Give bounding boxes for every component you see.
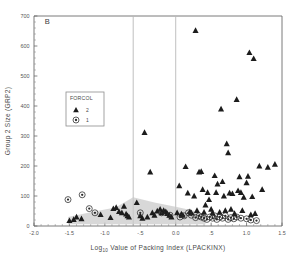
- legend-item-label-1: 1: [86, 117, 89, 123]
- data-point-circle-dot: [240, 217, 242, 219]
- data-point-triangle: [205, 189, 211, 195]
- data-point-triangle: [194, 207, 200, 213]
- y-tick-label: 200: [21, 163, 30, 169]
- data-point-triangle: [208, 206, 214, 212]
- data-point-triangle: [259, 186, 265, 192]
- data-point-circle-dot: [224, 215, 226, 217]
- y-tick-label: 300: [21, 133, 30, 139]
- data-point-circle-dot: [250, 219, 252, 221]
- data-point-circle-dot: [94, 212, 96, 214]
- data-point-triangle: [246, 49, 252, 55]
- data-point-triangle: [214, 181, 220, 187]
- data-point-triangle: [147, 169, 153, 175]
- data-point-triangle: [252, 210, 258, 216]
- data-point-triangle: [176, 183, 182, 189]
- x-tick-label: -1.0: [100, 230, 109, 236]
- data-point-triangle: [225, 150, 231, 156]
- data-point-circle-dot: [160, 212, 162, 214]
- data-point-triangle: [234, 96, 240, 102]
- data-point-triangle: [193, 27, 199, 33]
- y-tick-label: 0: [27, 223, 30, 229]
- data-point-triangle: [249, 193, 255, 199]
- data-point-triangle: [206, 196, 212, 202]
- data-point-triangle: [202, 202, 208, 208]
- data-point-triangle: [200, 186, 206, 192]
- y-axis-title: Group 2 Size (GRP2): [4, 87, 12, 155]
- legend-title: FORCOL: [70, 95, 93, 101]
- data-point-triangle: [236, 174, 242, 180]
- data-point-circle-dot: [139, 212, 141, 214]
- data-point-triangle: [185, 190, 191, 196]
- panel-label: B: [45, 17, 50, 26]
- y-tick-label: 100: [21, 193, 30, 199]
- data-point-triangle: [239, 207, 245, 213]
- x-tick-label: 1.0: [243, 230, 251, 236]
- data-point-triangle: [272, 161, 278, 167]
- data-point-triangle: [221, 193, 227, 199]
- data-point-triangle: [265, 164, 271, 170]
- x-tick-label: 0.0: [172, 230, 180, 236]
- data-point-triangle: [213, 189, 219, 195]
- legend-circled-dot-inner-icon: [75, 119, 77, 121]
- figure-container: 0100200300400500600700-2.0-1.5-1.0-.50.0…: [0, 0, 294, 267]
- x-axis-title: Log10 Value of Packing Index (LPACKINX): [91, 244, 226, 253]
- data-point-circle-dot: [169, 214, 171, 216]
- data-point-triangle: [183, 163, 189, 169]
- data-point-triangle: [244, 180, 250, 186]
- data-point-circle-dot: [81, 194, 83, 196]
- data-point-circle-dot: [190, 214, 192, 216]
- data-point-triangle: [218, 106, 224, 112]
- data-point-triangle: [256, 163, 262, 169]
- y-tick-label: 600: [21, 43, 30, 49]
- data-point-circle-dot: [183, 215, 185, 217]
- data-point-triangle: [212, 172, 218, 178]
- data-point-circle-dot: [88, 207, 90, 209]
- x-tick-label: -2.0: [29, 230, 38, 236]
- data-point-triangle: [141, 129, 147, 135]
- data-point-circle-dot: [255, 219, 257, 221]
- data-point-circle-dot: [67, 198, 69, 200]
- legend-item-label-2: 2: [86, 107, 89, 113]
- data-point-triangle: [191, 193, 197, 199]
- y-tick-label: 400: [21, 103, 30, 109]
- x-tick-label: -.5: [137, 230, 143, 236]
- data-point-triangle: [228, 206, 234, 212]
- x-tick-label: .5: [209, 230, 214, 236]
- scatter-plot: 0100200300400500600700-2.0-1.5-1.0-.50.0…: [0, 0, 294, 267]
- y-tick-label: 500: [21, 73, 30, 79]
- data-point-triangle: [219, 178, 225, 184]
- y-tick-label: 700: [21, 13, 30, 19]
- data-point-circle-dot: [245, 218, 247, 220]
- data-point-circle-dot: [236, 216, 238, 218]
- data-point-triangle: [245, 173, 251, 179]
- data-point-triangle: [251, 55, 257, 61]
- data-point-triangle: [222, 207, 228, 213]
- data-point-triangle: [224, 141, 230, 147]
- x-tick-label: 1.5: [278, 230, 286, 236]
- x-tick-label: -1.5: [65, 230, 74, 236]
- data-point-circle-dot: [179, 216, 181, 218]
